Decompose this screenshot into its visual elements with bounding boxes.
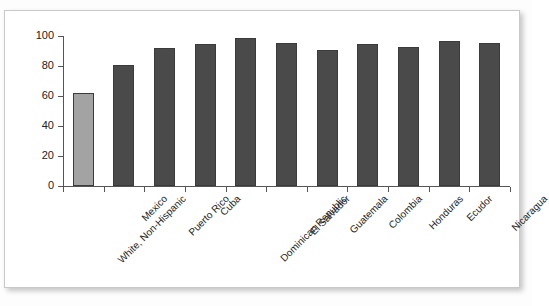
bar	[235, 38, 256, 186]
x-tick	[266, 187, 267, 192]
x-axis-label: Honduras	[427, 193, 465, 231]
x-tick	[388, 187, 389, 192]
y-tick-label: 80	[42, 59, 54, 72]
y-tick-label: 20	[42, 149, 54, 162]
x-axis-label: Colombia	[386, 193, 424, 231]
y-tick-label: 100	[36, 29, 54, 42]
x-tick	[347, 187, 348, 192]
x-tick	[510, 187, 511, 192]
x-tick	[104, 187, 105, 192]
x-axis-label: El Salvador	[307, 193, 351, 237]
bar	[439, 41, 460, 186]
bar	[357, 44, 378, 187]
y-tick-label: 0	[48, 179, 54, 192]
x-tick	[307, 187, 308, 192]
x-tick	[144, 187, 145, 192]
x-tick	[429, 187, 430, 192]
bar	[73, 93, 94, 186]
y-tick-label: 60	[42, 89, 54, 102]
x-axis-label: Guatemala	[347, 193, 389, 235]
x-tick	[226, 187, 227, 192]
bar	[398, 47, 419, 186]
x-axis-line	[63, 186, 510, 187]
y-tick-label: 40	[42, 119, 54, 132]
x-axis-labels: White, Non-HispanicMexicoPuerto RicoCuba…	[63, 193, 510, 289]
bar	[113, 65, 134, 187]
bar	[317, 50, 338, 187]
bar	[195, 44, 216, 186]
bar	[154, 48, 175, 186]
x-tick	[63, 187, 64, 192]
x-tick	[469, 187, 470, 192]
chart-frame: 020406080100 White, Non-HispanicMexicoPu…	[4, 10, 520, 288]
x-axis-label: Nicaragua	[509, 193, 549, 233]
bar	[479, 43, 500, 186]
x-axis-label: Ecudor	[464, 193, 494, 223]
bars-layer	[63, 36, 510, 186]
bar	[276, 43, 297, 186]
plot-area: 020406080100 White, Non-HispanicMexicoPu…	[5, 11, 521, 289]
x-tick	[185, 187, 186, 192]
